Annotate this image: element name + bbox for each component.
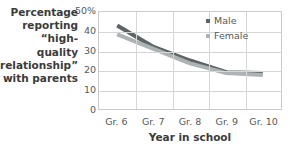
horizontal-gridline xyxy=(99,71,281,72)
legend-item-female: Female xyxy=(206,30,278,42)
vertical-gridline xyxy=(173,12,174,109)
x-tick-label: Gr. 8 xyxy=(179,116,201,127)
y-tick-label: 0 xyxy=(60,105,96,115)
x-tick-label: Gr. 10 xyxy=(249,116,278,127)
y-tick-label: 20 xyxy=(60,66,96,76)
horizontal-gridline xyxy=(99,52,281,53)
y-tick-label: 50% xyxy=(60,6,96,16)
legend-item-male: Male xyxy=(206,15,278,27)
legend-label: Male xyxy=(214,16,237,26)
x-axis-title: Year in school xyxy=(98,131,282,143)
y-axis-tick-labels: 50%403020100 xyxy=(60,0,96,148)
y-tick-label: 40 xyxy=(60,26,96,36)
x-tick-label: Gr. 6 xyxy=(105,116,127,127)
chart-figure: Percentage reporting “high-quality relat… xyxy=(0,0,290,148)
vertical-gridline xyxy=(136,12,137,109)
chart-legend: MaleFemale xyxy=(206,15,278,45)
legend-label: Female xyxy=(214,31,248,41)
y-tick-label: 30 xyxy=(60,46,96,56)
x-tick-label: Gr. 9 xyxy=(216,116,238,127)
y-tick-label: 10 xyxy=(60,85,96,95)
horizontal-gridline xyxy=(99,91,281,92)
legend-swatch-icon xyxy=(206,19,210,23)
x-tick-label: Gr. 7 xyxy=(142,116,164,127)
legend-swatch-icon xyxy=(206,34,210,38)
x-axis-tick-labels: Gr. 6Gr. 7Gr. 8Gr. 9Gr. 10 xyxy=(98,116,282,130)
